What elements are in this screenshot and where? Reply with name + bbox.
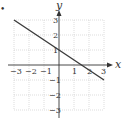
- bullet-marker: •: [0, 4, 5, 14]
- y-axis-label: y: [55, 0, 63, 12]
- x-tick: 3: [101, 67, 106, 76]
- x-axis-arrow-icon: [107, 63, 113, 68]
- x-tick: −2: [25, 67, 37, 76]
- axes: [8, 14, 110, 118]
- x-tick: 1: [72, 67, 77, 76]
- y-tick: −1: [49, 76, 61, 85]
- y-tick: −2: [49, 91, 61, 100]
- y-tick: −3: [49, 106, 61, 115]
- x-axis-label: x: [115, 58, 122, 71]
- line-graph: • x y −3 −2 −1 1 2 3 3 2 1 −1 −2 −3: [0, 0, 129, 129]
- x-tick: −1: [40, 67, 52, 76]
- y-tick: 2: [53, 31, 58, 40]
- x-tick: −3: [10, 67, 22, 76]
- y-tick: 3: [53, 16, 58, 25]
